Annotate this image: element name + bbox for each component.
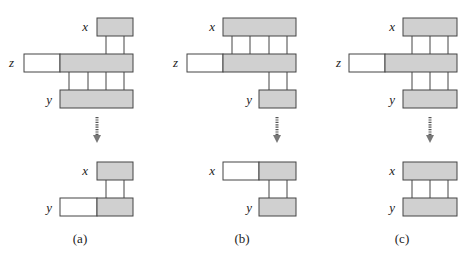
panel-a: x z y x y (a) [8, 18, 133, 246]
y-box-bottom [259, 198, 296, 216]
z-filled-box [385, 54, 457, 72]
y-box-top [403, 90, 457, 108]
y-box-top [259, 90, 296, 108]
z-empty-box [187, 54, 223, 72]
x-box-top [403, 18, 457, 36]
label-y-top: y [44, 92, 52, 107]
label-x-bottom: x [208, 163, 215, 178]
label-y-bottom: y [244, 200, 252, 215]
y-empty-box [60, 198, 97, 216]
y-filled-box [97, 198, 133, 216]
panel-b: x z y x y (b) [172, 18, 296, 246]
label-y-top: y [387, 92, 395, 107]
caption-b: (b) [234, 231, 249, 246]
z-empty-box [349, 54, 385, 72]
label-x-bottom: x [81, 163, 88, 178]
diagram: x z y x y (a) x z y [0, 0, 473, 253]
label-y-bottom: y [387, 200, 395, 215]
x-box-top [97, 18, 133, 36]
panel-c: x z y x y (c) [335, 18, 457, 246]
z-empty-box [24, 54, 60, 72]
label-z: z [172, 55, 178, 70]
label-z: z [8, 55, 14, 70]
label-z: z [335, 55, 341, 70]
z-filled-box [60, 54, 133, 72]
label-x-top: x [208, 19, 215, 34]
x-empty-box [223, 162, 259, 180]
label-y-bottom: y [44, 200, 52, 215]
x-filled-box [259, 162, 296, 180]
dotted-down-arrow-icon [93, 117, 101, 143]
z-filled-box [223, 54, 296, 72]
caption-a: (a) [73, 231, 87, 246]
y-box-bottom [403, 198, 457, 216]
label-x-top: x [388, 19, 395, 34]
label-x-bottom: x [388, 163, 395, 178]
caption-c: (c) [395, 231, 409, 246]
dotted-down-arrow-icon [426, 117, 434, 143]
x-box-bottom [97, 162, 133, 180]
label-y-top: y [244, 92, 252, 107]
x-box-bottom [403, 162, 457, 180]
y-box-top [60, 90, 133, 108]
dotted-down-arrow-icon [273, 117, 281, 143]
x-box-top [223, 18, 296, 36]
label-x-top: x [81, 19, 88, 34]
